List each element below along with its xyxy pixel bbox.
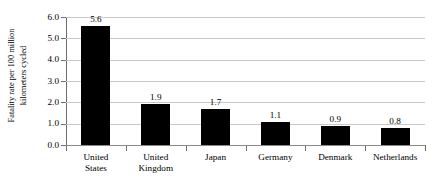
bar [201,109,230,145]
x-axis-category-label: Japan [186,152,246,163]
bar-value-label: 0.9 [315,115,355,124]
y-axis-tick-mark [61,124,66,125]
y-axis-tick-mark [61,17,66,18]
bar-value-label: 5.6 [76,15,116,24]
y-axis-title-line-1: Fatality rate per 100 million [7,28,19,122]
bar [381,128,410,145]
x-axis-category-label: Denmark [305,152,365,163]
bar-value-label: 1.9 [136,93,176,102]
y-axis-tick-label: 5.0 [33,34,59,43]
bar [261,122,290,145]
gridline [66,124,425,125]
y-axis-tick-mark [61,38,66,39]
y-axis-tick-label: 1.0 [33,119,59,128]
x-axis-category-label-line: United [126,152,186,163]
x-axis-tick-mark [305,146,306,151]
x-axis-tick-mark [66,146,67,151]
x-axis-category-label-line: Germany [246,152,306,163]
x-axis-category-label-line: States [66,163,126,174]
x-axis-category-label: Germany [246,152,306,163]
y-axis-tick-label: 2.0 [33,98,59,107]
y-axis-tick-label: 0.0 [33,141,59,150]
x-axis-category-label-line: Denmark [305,152,365,163]
gridline [66,102,425,103]
bar-value-label: 1.1 [255,111,295,120]
y-axis-tick-mark [61,102,66,103]
x-axis-tick-mark [425,146,426,151]
x-axis-category-label-line: Japan [186,152,246,163]
x-axis-category-label: Netherlands [365,152,425,163]
gridline [66,17,425,18]
x-axis-category-label-line: Kingdom [126,163,186,174]
x-axis-tick-mark [246,146,247,151]
y-axis-tick-mark [61,60,66,61]
bar-value-label: 0.8 [375,117,415,126]
x-axis-category-label-line: United [66,152,126,163]
x-axis-category-label-line: Netherlands [365,152,425,163]
bar [141,104,170,145]
gridline [66,60,425,61]
y-axis-title-line-2: kilometers cycled [18,28,30,122]
bar-chart: Fatality rate per 100 million kilometers… [0,0,440,187]
y-axis-tick-label: 4.0 [33,55,59,64]
bar-value-label: 1.7 [196,98,236,107]
bar [321,126,350,145]
gridline [66,38,425,39]
gridline [66,81,425,82]
x-axis-tick-mark [186,146,187,151]
y-axis-tick-label: 3.0 [33,77,59,86]
bar [81,26,110,145]
y-axis-tick-mark [61,81,66,82]
y-axis-tick-label: 6.0 [33,13,59,22]
plot-area: 5.61.91.71.10.90.8 [66,17,425,145]
y-axis-tick-labels: 0.01.02.03.04.05.06.0 [31,0,59,187]
x-axis-tick-mark [365,146,366,151]
x-axis-tick-mark [126,146,127,151]
x-axis-category-label: UnitedStates [66,152,126,174]
x-axis-category-label: UnitedKingdom [126,152,186,174]
